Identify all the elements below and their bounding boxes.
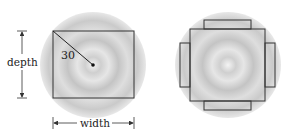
depth-label: depth <box>7 56 38 68</box>
width-label: width <box>80 117 110 129</box>
depth-dimension: depth <box>4 31 40 98</box>
width-dimension: width <box>53 117 134 129</box>
right-figure <box>175 12 281 118</box>
center-point <box>91 63 95 67</box>
diagram-canvas: 30 depth width <box>0 0 295 134</box>
left-figure: 30 depth width <box>4 12 146 129</box>
radius-label: 30 <box>61 49 75 62</box>
